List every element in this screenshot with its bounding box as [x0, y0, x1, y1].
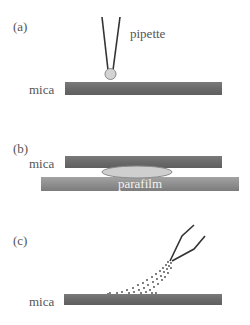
- spray-dots-icon: [107, 261, 172, 295]
- spray-pipette-icon: [0, 0, 250, 325]
- panel-c: (c) mica: [0, 0, 250, 325]
- mica-label-c: mica: [29, 295, 54, 308]
- mica-sheet-c: [64, 294, 222, 305]
